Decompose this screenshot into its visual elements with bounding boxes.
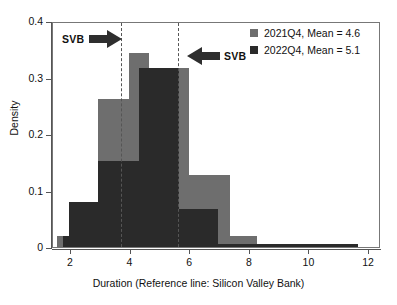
x-axis-tick-label: 6 xyxy=(174,257,204,268)
x-axis-tick-label: 4 xyxy=(115,257,145,268)
histogram-chart: Density 00.10.20.30.4 SVB SVB 2021Q4, Me… xyxy=(0,0,397,305)
y-axis-tick-label: 0.2 xyxy=(0,129,43,139)
x-axis-tick-label: 8 xyxy=(234,257,264,268)
annotation-svb-left: SVB xyxy=(62,29,123,49)
annotation-svb-right-label: SVB xyxy=(224,50,247,62)
histogram-bar xyxy=(139,68,179,247)
x-axis-tick xyxy=(249,249,250,254)
histogram-bar xyxy=(179,209,219,247)
y-axis-tick xyxy=(46,192,51,193)
y-axis-tick-label: 0.3 xyxy=(0,73,43,83)
x-axis-tick xyxy=(189,249,190,254)
legend-swatch-2022q4 xyxy=(250,46,258,54)
annotation-svb-left-label: SVB xyxy=(62,33,85,45)
legend-swatch-2021q4 xyxy=(250,29,258,37)
legend-label-2022q4: 2022Q4, Mean = 5.1 xyxy=(264,44,360,56)
x-axis-tick xyxy=(308,249,309,254)
x-axis-tick-label: 2 xyxy=(55,257,85,268)
y-axis-title: Density xyxy=(8,88,20,148)
reference-line xyxy=(178,23,179,247)
histogram-bar xyxy=(63,236,70,247)
annotation-svb-right: SVB xyxy=(186,46,247,66)
x-axis-tick-label: 12 xyxy=(353,257,383,268)
legend-label-2021q4: 2021Q4, Mean = 4.6 xyxy=(264,27,360,39)
histogram-bar xyxy=(69,202,98,247)
legend: 2021Q4, Mean = 4.6 2022Q4, Mean = 5.1 xyxy=(250,26,360,60)
x-axis-tick-label: 10 xyxy=(293,257,323,268)
y-axis-tick xyxy=(46,248,51,249)
histogram-bar xyxy=(98,161,139,247)
x-axis-title: Duration (Reference line: Silicon Valley… xyxy=(0,277,397,289)
y-axis-tick-label: 0.4 xyxy=(0,16,43,26)
reference-line xyxy=(121,23,122,247)
arrow-right-icon xyxy=(89,29,123,49)
x-axis-tick xyxy=(130,249,131,254)
y-axis-tick xyxy=(46,22,51,23)
y-axis-tick-label: 0 xyxy=(0,242,43,252)
y-axis-tick xyxy=(46,135,51,136)
arrow-left-icon xyxy=(186,46,220,66)
x-axis-tick xyxy=(70,249,71,254)
y-axis-tick-label: 0.1 xyxy=(0,186,43,196)
legend-item-2022q4: 2022Q4, Mean = 5.1 xyxy=(250,43,360,57)
legend-item-2021q4: 2021Q4, Mean = 4.6 xyxy=(250,26,360,40)
y-axis-tick xyxy=(46,79,51,80)
histogram-bar xyxy=(218,244,357,247)
x-axis-tick xyxy=(368,249,369,254)
x-axis-line xyxy=(52,249,381,250)
